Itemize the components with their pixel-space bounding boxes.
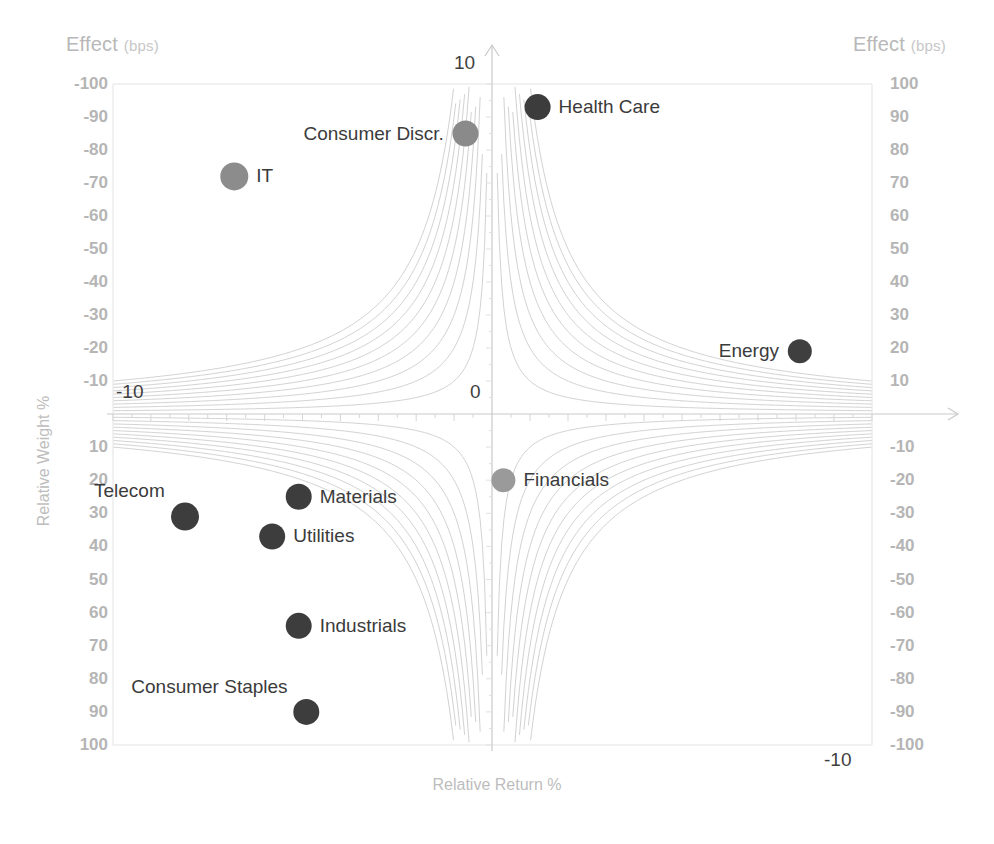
plot-area bbox=[0, 0, 994, 844]
y-tick-label-right: -10 bbox=[890, 438, 950, 455]
bubble-label-materials: Materials bbox=[320, 487, 397, 506]
y-tick-label-left: 70 bbox=[52, 637, 108, 654]
y-tick-label-right: -60 bbox=[890, 604, 950, 621]
y-tick-top: 10 bbox=[454, 53, 475, 72]
y-tick-label-right: -80 bbox=[890, 670, 950, 687]
y-tick-label-left: -70 bbox=[52, 174, 108, 191]
effect-axis-title-right: Effect (bps) bbox=[853, 33, 946, 56]
bubble-consumer-discr[interactable] bbox=[452, 121, 478, 147]
y-tick-label-right: 100 bbox=[890, 75, 950, 92]
bubble-materials[interactable] bbox=[286, 484, 312, 510]
y-tick-label-left: 90 bbox=[52, 703, 108, 720]
y-tick-label-right: -70 bbox=[890, 637, 950, 654]
bubble-label-financials: Financials bbox=[523, 470, 609, 489]
effect-axis-unit-right: (bps) bbox=[911, 37, 946, 54]
bubble-consumer-staples[interactable] bbox=[293, 699, 319, 725]
y-tick-label-left: -50 bbox=[52, 240, 108, 257]
y-tick-label-left: 100 bbox=[52, 736, 108, 753]
x-tick-left: -10 bbox=[116, 382, 143, 401]
y-tick-label-left: -20 bbox=[52, 339, 108, 356]
y-tick-label-right: -40 bbox=[890, 537, 950, 554]
y-tick-label-left: -10 bbox=[52, 372, 108, 389]
y-tick-label-left: 10 bbox=[52, 438, 108, 455]
y-tick-label-right: 90 bbox=[890, 108, 950, 125]
y-tick-label-left: -80 bbox=[52, 141, 108, 158]
y-tick-label-right: 10 bbox=[890, 372, 950, 389]
y-tick-label-right: 70 bbox=[890, 174, 950, 191]
y-tick-label-left: 80 bbox=[52, 670, 108, 687]
y-tick-label-right: 40 bbox=[890, 273, 950, 290]
y-tick-label-right: -90 bbox=[890, 703, 950, 720]
effect-axis-title-left: Effect (bps) bbox=[66, 33, 159, 56]
effect-axis-title-right-text: Effect bbox=[853, 33, 905, 55]
bubble-energy[interactable] bbox=[788, 339, 812, 363]
y-tick-label-right: -20 bbox=[890, 471, 950, 488]
y-tick-label-left: -40 bbox=[52, 273, 108, 290]
y-tick-label-right: 30 bbox=[890, 306, 950, 323]
bubble-telecom[interactable] bbox=[171, 503, 199, 531]
y-tick-label-left: -30 bbox=[52, 306, 108, 323]
bubble-health-care[interactable] bbox=[525, 94, 551, 120]
y-tick-label-right: -30 bbox=[890, 504, 950, 521]
x-tick-right: -10 bbox=[824, 750, 851, 769]
x-tick-center: 0 bbox=[470, 382, 481, 401]
y-tick-label-left: -90 bbox=[52, 108, 108, 125]
y-tick-label-left: 60 bbox=[52, 604, 108, 621]
bubble-it[interactable] bbox=[220, 162, 248, 190]
y-tick-label-right: -50 bbox=[890, 571, 950, 588]
y-tick-label-right: 20 bbox=[890, 339, 950, 356]
bubble-financials[interactable] bbox=[491, 468, 515, 492]
y-tick-label-right: 80 bbox=[890, 141, 950, 158]
effect-axis-title-left-text: Effect bbox=[66, 33, 118, 55]
bubble-label-consumer-discr: Consumer Discr. bbox=[303, 124, 443, 143]
axis-lines bbox=[107, 45, 958, 751]
bubble-label-telecom: Telecom bbox=[94, 481, 165, 500]
y-axis-title: Relative Weight % bbox=[35, 371, 53, 551]
y-tick-label-left: -100 bbox=[52, 75, 108, 92]
y-tick-label-left: 40 bbox=[52, 537, 108, 554]
bubble-label-health-care: Health Care bbox=[559, 97, 660, 116]
bubble-label-industrials: Industrials bbox=[320, 616, 407, 635]
y-tick-label-left: 50 bbox=[52, 571, 108, 588]
bubble-chart: Effect (bps) Effect (bps) Relative Weigh… bbox=[0, 0, 994, 844]
bubble-industrials[interactable] bbox=[286, 613, 312, 639]
bubble-label-consumer-staples: Consumer Staples bbox=[131, 677, 287, 696]
y-tick-label-left: -60 bbox=[52, 207, 108, 224]
bubble-label-it: IT bbox=[256, 166, 273, 185]
y-tick-label-right: -100 bbox=[890, 736, 950, 753]
y-tick-label-right: 60 bbox=[890, 207, 950, 224]
bubble-label-energy: Energy bbox=[719, 341, 779, 360]
y-tick-label-right: 50 bbox=[890, 240, 950, 257]
effect-axis-unit-left: (bps) bbox=[124, 37, 159, 54]
y-tick-label-left: 30 bbox=[52, 504, 108, 521]
bubble-utilities[interactable] bbox=[259, 523, 285, 549]
bubble-label-utilities: Utilities bbox=[293, 526, 354, 545]
x-axis-title: Relative Return % bbox=[397, 776, 597, 794]
